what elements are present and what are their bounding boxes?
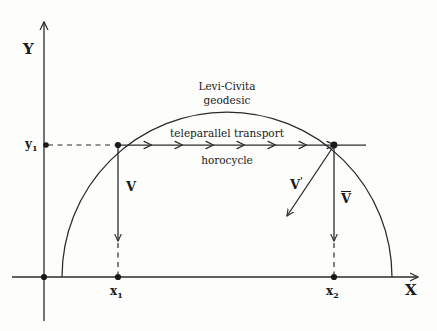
point-x1-on-arc [115,142,121,148]
point-x2-on-arc [331,142,338,149]
x-axis-label: X [405,283,417,298]
vector-vbar-text: V [341,191,351,206]
x2-tick-label: x2 [326,285,339,299]
y1-base: y [25,137,32,151]
vector-vprime-mark: ' [300,176,303,186]
y1-tick-label: y1 [25,138,38,152]
origin-point [41,274,47,280]
x2-axis-point [331,274,337,280]
geodesic-annotation-line2: geodesic [204,95,251,106]
vector-v-text: V [126,179,136,194]
vector-v-label: V [126,180,136,193]
x2-sub: 2 [333,290,339,300]
transport-annotation-line2: horocycle [201,155,253,166]
y1-sub: 1 [32,143,38,153]
x1-tick-label: x1 [110,285,123,299]
geodesic-annotation-line1: Levi-Civita [198,81,255,92]
y1-axis-point [43,142,49,148]
transport-annotation-line1: teleparallel transport [170,128,284,139]
x1-axis-point [115,274,121,280]
y-axis-label: Y [23,42,34,57]
horocycle-group [118,141,366,148]
vector-vprime-label: V' [290,177,303,191]
vector-vbar-label: V [341,191,351,206]
axis-group [12,22,418,321]
x1-sub: 1 [117,290,123,300]
vector-vprime-text: V [290,177,300,192]
